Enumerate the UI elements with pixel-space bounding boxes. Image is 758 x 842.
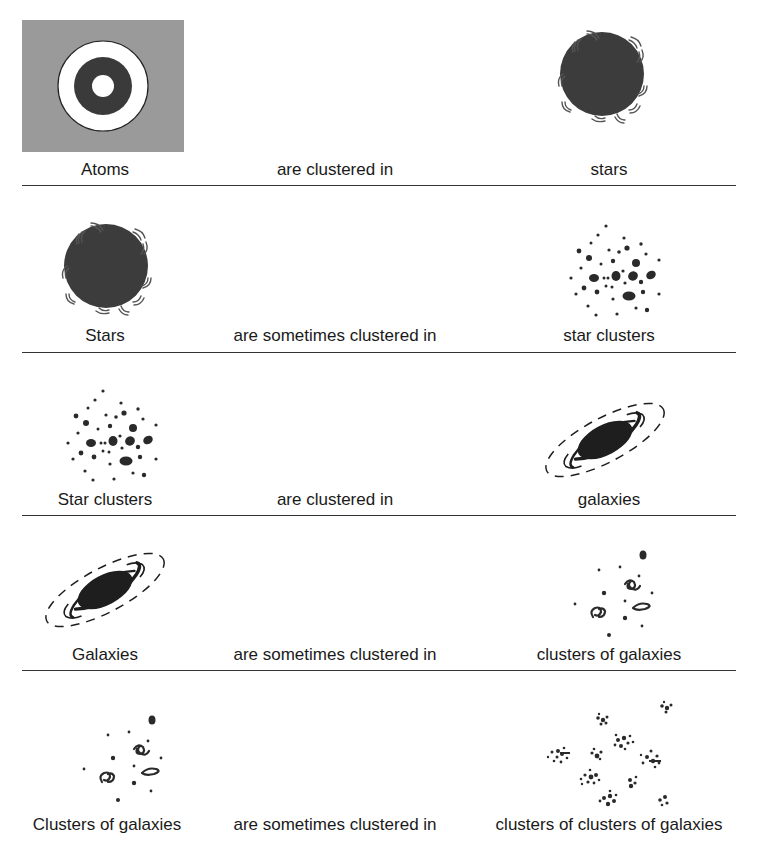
supercluster-icon bbox=[530, 700, 680, 815]
row-divider bbox=[22, 515, 736, 516]
galaxy-icon bbox=[30, 545, 180, 630]
object-label: clusters of clusters of galaxies bbox=[496, 815, 723, 835]
row-divider bbox=[22, 185, 736, 186]
object-label: stars bbox=[591, 160, 628, 180]
galaxy-icon bbox=[530, 395, 680, 480]
row-divider bbox=[22, 670, 736, 671]
star-cluster-icon bbox=[58, 381, 162, 485]
star-icon bbox=[557, 26, 652, 126]
object-label: galaxies bbox=[578, 490, 640, 510]
atom-icon bbox=[22, 20, 184, 152]
galaxy-cluster-icon bbox=[62, 705, 172, 805]
subject-label: Galaxies bbox=[72, 645, 138, 665]
relation-label: are clustered in bbox=[277, 490, 393, 510]
galaxy-cluster-icon bbox=[553, 540, 663, 640]
star-cluster-icon bbox=[561, 216, 665, 320]
subject-label: Star clusters bbox=[58, 490, 152, 510]
relation-label: are clustered in bbox=[277, 160, 393, 180]
subject-label: Atoms bbox=[81, 160, 129, 180]
relation-label: are sometimes clustered in bbox=[233, 645, 436, 665]
object-label: star clusters bbox=[563, 326, 655, 346]
subject-label: Stars bbox=[85, 326, 125, 346]
row-divider bbox=[22, 352, 736, 353]
subject-label: Clusters of galaxies bbox=[33, 815, 181, 835]
relation-label: are sometimes clustered in bbox=[233, 326, 436, 346]
object-label: clusters of galaxies bbox=[537, 645, 682, 665]
star-icon bbox=[61, 218, 156, 318]
relation-label: are sometimes clustered in bbox=[233, 815, 436, 835]
